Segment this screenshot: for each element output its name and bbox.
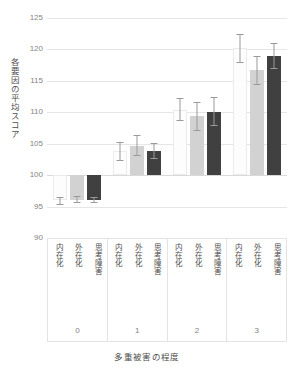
table-group-2: 内在化外在化思考障害2 (168, 239, 228, 341)
error-bar-stem (120, 142, 121, 161)
error-bar-stem (214, 97, 215, 126)
table-cell: 内在化 (48, 243, 68, 311)
error-bar-cap-top (57, 197, 64, 198)
error-bar-cap-top (151, 143, 158, 144)
error-bar-stem (137, 135, 138, 156)
error-bar-cap-top (254, 56, 261, 57)
error-bar-cap-top (134, 135, 141, 136)
error-bar-cap-top (211, 97, 218, 98)
table-group-number: 2 (168, 327, 227, 341)
error-bar-cap-top (91, 197, 98, 198)
error-bar-1-内在化 (113, 142, 127, 161)
error-bar-cap-bottom (91, 202, 98, 203)
y-tick-label: 105 (21, 140, 43, 148)
table-group-number: 1 (108, 327, 167, 341)
error-bar-cap-bottom (74, 202, 81, 203)
table-cell-label: 外在化 (252, 243, 261, 267)
error-bar-stem (197, 102, 198, 130)
y-tick-label: 115 (21, 77, 43, 85)
bar-3-内在化 (233, 48, 247, 175)
error-bar-cap-bottom (151, 158, 158, 159)
plot-area: 9095100105110115120125 (47, 18, 287, 238)
error-bar-2-外在化 (190, 102, 204, 130)
table-cell: 思考障害 (266, 243, 286, 311)
error-bar-1-思考障害 (147, 143, 161, 159)
y-axis-title: 各要因の平均スコア (2, 58, 18, 139)
table-cell: 外在化 (247, 243, 267, 311)
error-bar-cap-bottom (211, 125, 218, 126)
error-bar-0-外在化 (70, 196, 84, 204)
error-bar-cap-bottom (254, 84, 261, 85)
error-bar-cap-bottom (117, 160, 124, 161)
error-bar-3-外在化 (250, 56, 264, 84)
error-bar-2-思考障害 (207, 97, 221, 126)
error-bar-stem (274, 43, 275, 69)
y-tick-label: 120 (21, 45, 43, 53)
error-bar-cap-bottom (237, 62, 244, 63)
error-bar-cap-top (177, 98, 184, 99)
table-cell-row: 内在化外在化思考障害 (227, 239, 286, 311)
table-cell-label: 外在化 (133, 243, 142, 267)
error-bar-2-内在化 (173, 98, 187, 121)
table-cell: 内在化 (227, 243, 247, 311)
error-bar-stem (257, 56, 258, 84)
gridline-95 (47, 207, 287, 208)
table-group-1: 内在化外在化思考障害1 (108, 239, 168, 341)
table-cell: 外在化 (187, 243, 207, 311)
bar-3-思考障害 (267, 56, 281, 175)
table-cell: 思考障害 (87, 243, 107, 311)
y-tick-label: 110 (21, 108, 43, 116)
error-bar-cap-bottom (194, 130, 201, 131)
table-cell-row: 内在化外在化思考障害 (168, 239, 227, 311)
error-bar-stem (180, 98, 181, 121)
error-bar-3-内在化 (233, 34, 247, 62)
error-bar-0-内在化 (53, 197, 67, 206)
table-cell-label: 内在化 (53, 243, 62, 267)
error-bar-cap-top (194, 102, 201, 103)
y-tick-label: 125 (21, 14, 43, 22)
y-tick-label: 100 (21, 171, 43, 179)
error-bar-cap-bottom (134, 155, 141, 156)
gridline-125 (47, 18, 287, 19)
error-bar-stem (240, 34, 241, 62)
table-cell-label: 内在化 (173, 243, 182, 267)
error-bar-cap-top (237, 34, 244, 35)
table-cell: 外在化 (68, 243, 88, 311)
x-axis-title: 多重被害の程度 (0, 350, 294, 362)
gridline-120 (47, 49, 287, 50)
error-bar-cap-top (271, 43, 278, 44)
error-bar-cap-bottom (57, 204, 64, 205)
table-cell: 外在化 (127, 243, 147, 311)
category-table: 内在化外在化思考障害0内在化外在化思考障害1内在化外在化思考障害2内在化外在化思… (47, 238, 287, 342)
error-bar-0-思考障害 (87, 197, 101, 204)
y-tick-label: 95 (21, 203, 43, 211)
table-cell-label: 外在化 (73, 243, 82, 267)
error-bar-cap-top (74, 196, 81, 197)
bar-3-外在化 (250, 70, 264, 175)
error-bar-stem (154, 143, 155, 159)
error-bar-cap-bottom (271, 68, 278, 69)
table-group-number: 0 (48, 327, 107, 341)
table-cell-label: 内在化 (113, 243, 122, 267)
table-cell-row: 内在化外在化思考障害 (48, 239, 107, 311)
table-cell: 思考障害 (147, 243, 167, 311)
table-cell-label: 思考障害 (212, 243, 221, 275)
table-cell-label: 外在化 (193, 243, 202, 267)
error-bar-cap-bottom (177, 120, 184, 121)
table-cell-label: 思考障害 (272, 243, 281, 275)
table-cell: 思考障害 (207, 243, 227, 311)
error-bar-cap-top (117, 142, 124, 143)
table-cell: 内在化 (168, 243, 188, 311)
table-cell-row: 内在化外在化思考障害 (108, 239, 167, 311)
table-group-3: 内在化外在化思考障害3 (227, 239, 286, 341)
table-cell: 内在化 (108, 243, 128, 311)
table-group-0: 内在化外在化思考障害0 (48, 239, 108, 341)
table-cell-label: 思考障害 (152, 243, 161, 275)
error-bar-3-思考障害 (267, 43, 281, 69)
error-bar-1-外在化 (130, 135, 144, 156)
table-cell-label: 思考障害 (93, 243, 102, 275)
table-group-number: 3 (227, 327, 286, 341)
y-tick-label: 90 (21, 234, 43, 242)
table-cell-label: 内在化 (233, 243, 242, 267)
chart-figure: 各要因の平均スコア 9095100105110115120125 内在化外在化思… (0, 0, 294, 371)
